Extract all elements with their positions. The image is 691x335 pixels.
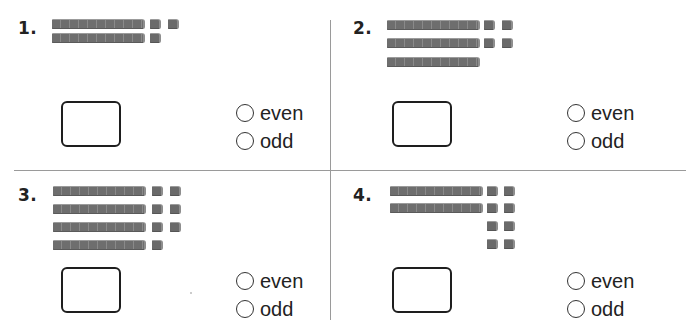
unit-cube [504, 186, 515, 196]
unit-cube [504, 239, 515, 249]
unit-cube [487, 203, 498, 213]
radio-circle-icon[interactable] [567, 272, 585, 290]
problem-number: 1. [18, 18, 37, 38]
tens-rod [390, 186, 483, 196]
radio-circle-icon[interactable] [236, 300, 254, 318]
radio-circle-icon[interactable] [236, 272, 254, 290]
problem-number: 3. [18, 185, 37, 205]
unit-cube [504, 203, 515, 213]
option-even[interactable]: even [567, 269, 634, 293]
unit-cube [487, 239, 498, 249]
option-label: even [260, 101, 303, 125]
unit-cube [502, 38, 513, 48]
unit-cube [484, 38, 495, 48]
option-label: even [591, 101, 634, 125]
answer-box[interactable] [392, 101, 452, 147]
problem-number: 2. [353, 18, 372, 38]
unit-cube [152, 204, 163, 214]
problem-2: 2. even odd [331, 0, 661, 165]
unit-cube [502, 20, 513, 30]
tens-rod [52, 33, 145, 43]
tens-rod [387, 20, 480, 30]
option-label: even [260, 269, 303, 293]
tens-rod [53, 186, 146, 196]
option-label: odd [591, 129, 624, 153]
unit-cube [170, 204, 181, 214]
tens-rod [390, 203, 483, 213]
tens-rod [53, 222, 146, 232]
tens-rod [387, 57, 480, 67]
option-label: odd [260, 297, 293, 321]
unit-cube [152, 186, 163, 196]
option-even[interactable]: even [236, 101, 303, 125]
unit-cube [170, 222, 181, 232]
option-odd[interactable]: odd [236, 129, 293, 153]
tens-rod [53, 204, 146, 214]
radio-circle-icon[interactable] [236, 104, 254, 122]
option-odd[interactable]: odd [567, 297, 624, 321]
answer-box[interactable] [61, 101, 121, 147]
unit-cube [152, 222, 163, 232]
unit-cube [170, 186, 181, 196]
radio-circle-icon[interactable] [236, 132, 254, 150]
unit-cube [150, 33, 161, 43]
stray-mark [190, 292, 192, 294]
option-even[interactable]: even [236, 269, 303, 293]
tens-rod [387, 38, 480, 48]
unit-cube [168, 19, 179, 29]
radio-circle-icon[interactable] [567, 300, 585, 318]
problem-3: 3. even [0, 171, 330, 335]
unit-cube [484, 20, 495, 30]
option-label: odd [260, 129, 293, 153]
unit-cube [504, 221, 515, 231]
option-label: even [591, 269, 634, 293]
tens-rod [52, 19, 145, 29]
option-odd[interactable]: odd [567, 129, 624, 153]
unit-cube [152, 240, 163, 250]
unit-cube [487, 186, 498, 196]
answer-box[interactable] [392, 267, 452, 313]
answer-box[interactable] [61, 267, 121, 313]
option-label: odd [591, 297, 624, 321]
problem-4: 4. even [331, 171, 661, 335]
radio-circle-icon[interactable] [567, 104, 585, 122]
unit-cube [487, 221, 498, 231]
option-even[interactable]: even [567, 101, 634, 125]
problem-number: 4. [353, 185, 372, 205]
option-odd[interactable]: odd [236, 297, 293, 321]
radio-circle-icon[interactable] [567, 132, 585, 150]
problem-1: 1. even odd [0, 0, 330, 165]
unit-cube [150, 19, 161, 29]
tens-rod [53, 240, 146, 250]
